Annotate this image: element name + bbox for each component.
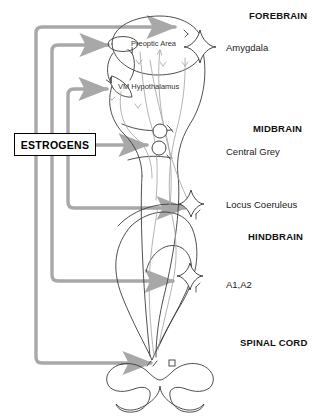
region-label-spinal-cord: SPINAL CORD xyxy=(240,337,307,348)
cg-tick xyxy=(167,125,173,132)
poa-synapse-b xyxy=(160,62,166,66)
estrogen-brain-diagram: ESTROGENS FOREBRAIN MIDBRAIN HINDBRAIN S… xyxy=(0,0,335,417)
locus-coeruleus-star xyxy=(178,190,204,217)
nucleus-label-locus-coeruleus: Locus Coeruleus xyxy=(226,199,297,210)
nuclei-markers xyxy=(152,30,216,290)
region-label-midbrain: MIDBRAIN xyxy=(253,123,302,134)
spinal-cord-butterfly xyxy=(107,363,214,412)
internal-projection-fibers xyxy=(109,50,188,356)
central-grey-upper-circle xyxy=(153,124,167,138)
estrogens-source-box: ESTROGENS xyxy=(14,133,96,156)
region-label-forebrain: FOREBRAIN xyxy=(249,10,307,21)
hindbrain-outline xyxy=(116,212,197,360)
synaptic-ticks xyxy=(167,30,200,292)
inner-label-vm-hypothalamus: VM Hypothalamus xyxy=(118,82,179,91)
poa-to-vmh-connector xyxy=(107,53,113,83)
lc-tick xyxy=(196,210,200,219)
estrogens-label: ESTROGENS xyxy=(21,139,90,151)
a1a2-star xyxy=(177,263,203,290)
amygdala-star xyxy=(184,30,216,63)
spinal-dorsal-marker-box xyxy=(169,360,175,366)
amygdala-tick xyxy=(184,30,188,37)
a1a2-tick xyxy=(196,283,200,292)
vmh-synapse-a xyxy=(135,104,141,108)
nucleus-label-a1-a2: A1,A2 xyxy=(226,279,252,290)
brainstem-left-wall xyxy=(110,86,142,176)
vmh-to-poa-connector xyxy=(130,53,134,80)
nucleus-label-central-grey: Central Grey xyxy=(226,146,280,157)
inner-label-preoptic-area: Preoptic Area xyxy=(131,39,176,48)
central-grey-lower-circle xyxy=(152,141,166,155)
descending-tract-left xyxy=(141,176,150,356)
nucleus-label-amygdala: Amygdala xyxy=(226,42,268,53)
region-label-hindbrain: HINDBRAIN xyxy=(248,231,303,242)
arrow-to-preoptic-area-path xyxy=(52,45,108,145)
estrogen-pathway-arrows xyxy=(36,27,185,363)
brain-outline xyxy=(107,16,214,412)
